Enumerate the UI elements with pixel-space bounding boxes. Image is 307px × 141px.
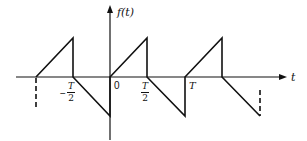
y-axis-arrow-icon [107,5,113,13]
period-label: T [189,81,196,91]
x-axis-label: t [291,72,295,83]
y-axis-label: f(t) [117,7,134,18]
half-period-label: T 2 [141,82,149,103]
origin-label: 0 [114,81,120,91]
neg-sign: − [60,89,66,99]
neg-half-period-label: T 2 [67,82,75,103]
denominator: 2 [68,94,74,103]
waveform-diagram [0,0,307,141]
numerator: T [142,82,148,91]
denominator: 2 [142,94,148,103]
x-axis-arrow-icon [279,74,287,80]
numerator: T [68,82,74,91]
